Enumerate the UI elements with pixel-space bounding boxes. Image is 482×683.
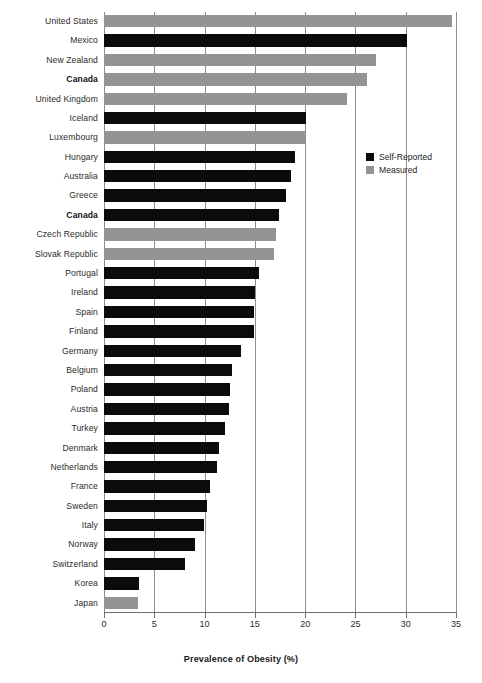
bar-row (104, 345, 456, 357)
bar (104, 422, 225, 434)
obesity-prevalence-bar-chart: United StatesMexicoNew ZealandCanadaUnit… (0, 0, 482, 683)
category-label: Iceland (0, 113, 98, 123)
bar (104, 364, 232, 376)
bars-layer (104, 12, 456, 613)
bar (104, 267, 259, 279)
x-tick-mark-15 (255, 613, 256, 618)
category-label: Spain (0, 307, 98, 317)
legend-swatch-measured-icon (366, 166, 374, 174)
bar-row (104, 15, 456, 27)
bar (104, 170, 291, 182)
category-label: Turkey (0, 423, 98, 433)
legend-item-self-reported: Self-Reported (366, 152, 432, 162)
bar-row (104, 538, 456, 550)
category-label: Luxembourg (0, 132, 98, 142)
bar-row (104, 422, 456, 434)
category-label: New Zealand (0, 55, 98, 65)
x-tick-mark-0 (104, 613, 105, 618)
bar (104, 480, 210, 492)
bar (104, 383, 230, 395)
bar-row (104, 403, 456, 415)
x-tick-label-5: 5 (152, 619, 157, 629)
category-label: Norway (0, 539, 98, 549)
category-axis-labels: United StatesMexicoNew ZealandCanadaUnit… (0, 12, 98, 613)
bar (104, 112, 306, 124)
bar (104, 461, 217, 473)
x-tick-label-25: 25 (350, 619, 360, 629)
bar (104, 54, 376, 66)
gridline-35 (456, 12, 457, 613)
bar (104, 345, 241, 357)
x-tick-label-0: 0 (101, 619, 106, 629)
category-label: Portugal (0, 268, 98, 278)
legend-label-measured: Measured (379, 165, 417, 175)
bar (104, 519, 204, 531)
category-label: Czech Republic (0, 229, 98, 239)
bar-row (104, 461, 456, 473)
plot-area (104, 12, 456, 613)
category-label: Finland (0, 326, 98, 336)
bar-row (104, 93, 456, 105)
bar-row (104, 442, 456, 454)
x-tick-label-35: 35 (451, 619, 461, 629)
bar (104, 93, 347, 105)
chart-legend: Self-Reported Measured (366, 152, 432, 178)
bar (104, 325, 254, 337)
bar-row (104, 325, 456, 337)
category-label: Mexico (0, 35, 98, 45)
legend-swatch-self-reported-icon (366, 153, 374, 161)
bar-row (104, 34, 456, 46)
category-label: Slovak Republic (0, 249, 98, 259)
bar (104, 228, 276, 240)
bar-row (104, 577, 456, 589)
bar (104, 286, 255, 298)
bar (104, 131, 305, 143)
category-label: Sweden (0, 501, 98, 511)
category-label: Korea (0, 578, 98, 588)
x-tick-label-30: 30 (401, 619, 411, 629)
bar (104, 538, 195, 550)
bar-row (104, 267, 456, 279)
bar-row (104, 248, 456, 260)
bar (104, 209, 279, 221)
bar-row (104, 558, 456, 570)
bar (104, 73, 367, 85)
bar (104, 151, 295, 163)
x-tick-mark-5 (154, 613, 155, 618)
bar (104, 597, 138, 609)
x-tick-label-15: 15 (250, 619, 260, 629)
x-axis-tick-labels: 05101520253035 (104, 619, 456, 633)
bar (104, 500, 207, 512)
bar (104, 248, 274, 260)
bar-row (104, 73, 456, 85)
legend-label-self-reported: Self-Reported (379, 152, 432, 162)
bar-row (104, 306, 456, 318)
x-tick-mark-20 (305, 613, 306, 618)
category-label: Hungary (0, 152, 98, 162)
bar-row (104, 500, 456, 512)
bar (104, 34, 407, 46)
category-label: Poland (0, 384, 98, 394)
bar-row (104, 364, 456, 376)
x-tick-label-10: 10 (200, 619, 210, 629)
x-tick-mark-35 (456, 613, 457, 618)
category-label: Canada (0, 74, 98, 84)
bar (104, 403, 229, 415)
category-label: France (0, 481, 98, 491)
x-axis-title: Prevalence of Obesity (%) (0, 654, 482, 664)
bar-row (104, 383, 456, 395)
category-label: Ireland (0, 287, 98, 297)
x-tick-label-20: 20 (300, 619, 310, 629)
category-label: Belgium (0, 365, 98, 375)
bar-row (104, 189, 456, 201)
bar-row (104, 209, 456, 221)
bar (104, 15, 452, 27)
bar-row (104, 597, 456, 609)
bar-row (104, 286, 456, 298)
x-tick-mark-30 (406, 613, 407, 618)
legend-item-measured: Measured (366, 165, 432, 175)
x-tick-mark-10 (205, 613, 206, 618)
x-tick-mark-25 (355, 613, 356, 618)
bar-row (104, 519, 456, 531)
bar-row (104, 112, 456, 124)
